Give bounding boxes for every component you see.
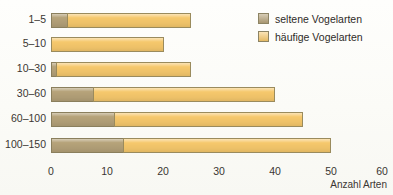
x-tick-label: 60: [376, 165, 388, 177]
category-label-4: 60–100: [0, 112, 46, 124]
category-label-text: 1–5: [28, 13, 46, 25]
legend-swatch-rare-icon: [258, 13, 269, 24]
legend-item-rare: seltene Vogelarten: [258, 11, 363, 26]
x-tick-6: 60: [376, 165, 388, 177]
x-axis-line: [51, 162, 387, 163]
x-tick-label: 50: [325, 165, 337, 177]
legend-label-common: häufige Vogelarten: [275, 31, 363, 43]
category-label-text: 5–10: [23, 37, 46, 49]
bar-segment-common: [114, 112, 303, 127]
category-label-text: 10–30: [17, 62, 46, 74]
category-label-text: 60–100: [11, 112, 46, 124]
bar-segment-common: [51, 37, 164, 52]
legend-item-common: häufige Vogelarten: [258, 29, 363, 44]
x-tick-label: 0: [48, 165, 54, 177]
x-tick-0: 0: [48, 165, 54, 177]
x-tick-1: 10: [101, 165, 113, 177]
bar-segment-rare: [51, 87, 94, 102]
category-label-1: 5–10: [0, 37, 46, 49]
bird-species-stacked-bar-chart: 1–5 5–10 10–30 30–60 60–100 100–150: [0, 0, 393, 195]
x-tick-4: 40: [269, 165, 281, 177]
x-tick-2: 20: [157, 165, 169, 177]
bar-segment-rare: [51, 112, 115, 127]
bar-segment-common: [123, 138, 331, 153]
category-label-text: 100–150: [5, 138, 46, 150]
x-tick-5: 50: [325, 165, 337, 177]
bar-segment-rare: [51, 138, 124, 153]
x-tick-label: 20: [157, 165, 169, 177]
x-tick-label: 40: [269, 165, 281, 177]
x-axis-title: Anzahl Arten: [330, 179, 387, 190]
category-label-5: 100–150: [0, 138, 46, 150]
category-label-0: 1–5: [0, 13, 46, 25]
bar-segment-rare: [51, 13, 68, 28]
x-tick-label: 30: [213, 165, 225, 177]
x-tick-3: 30: [213, 165, 225, 177]
bar-segment-common: [67, 13, 191, 28]
category-label-3: 30–60: [0, 87, 46, 99]
legend-swatch-common-icon: [258, 31, 269, 42]
bar-segment-common: [93, 87, 275, 102]
x-tick-label: 10: [101, 165, 113, 177]
category-label-2: 10–30: [0, 62, 46, 74]
bar-segment-common: [56, 62, 191, 77]
chart-legend: seltene Vogelarten häufige Vogelarten: [258, 11, 363, 47]
legend-label-rare: seltene Vogelarten: [275, 13, 362, 25]
category-label-text: 30–60: [17, 87, 46, 99]
